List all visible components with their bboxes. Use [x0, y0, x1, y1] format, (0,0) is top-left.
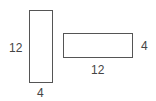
- wide-rectangle: [63, 33, 133, 58]
- wide-rectangle-width-label: 12: [91, 64, 104, 76]
- tall-rectangle-height-label: 12: [9, 42, 22, 54]
- wide-rectangle-height-label: 4: [141, 40, 148, 52]
- tall-rectangle: [29, 10, 53, 83]
- tall-rectangle-width-label: 4: [37, 87, 44, 99]
